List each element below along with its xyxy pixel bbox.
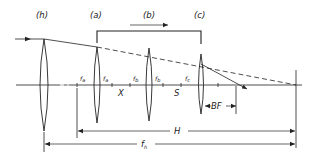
- focal-label-fc: fc: [185, 75, 190, 83]
- ray-arrow-icon: [25, 37, 31, 41]
- lens-label-b: (b): [143, 10, 155, 20]
- ray-h-to-a: [44, 39, 97, 47]
- spacing-label-x: X: [117, 88, 124, 98]
- lens-label-a: (a): [90, 10, 102, 20]
- lens-label-h: (h): [36, 10, 48, 20]
- optical-diagram: (h) (a) (b) (c) fa fa fb fb fc X S BF H …: [0, 0, 316, 158]
- spacing-label-s: S: [174, 88, 180, 98]
- focal-label-fb-left: fb: [133, 75, 138, 83]
- lens-label-c: (c): [194, 10, 205, 20]
- lens-c: [199, 54, 204, 114]
- dashed-ray: [97, 47, 296, 85]
- focal-label-fa-right: fa: [103, 75, 108, 83]
- dimension-label-fh: fh: [141, 139, 147, 150]
- lens-b: [146, 48, 152, 121]
- focal-label-fa-left: fa: [80, 75, 85, 83]
- dimension-label-bf: BF: [211, 101, 222, 111]
- dimension-label-h: H: [174, 126, 181, 136]
- zoom-group-bracket: [97, 31, 201, 44]
- focal-label-fb-right: fb: [155, 75, 160, 83]
